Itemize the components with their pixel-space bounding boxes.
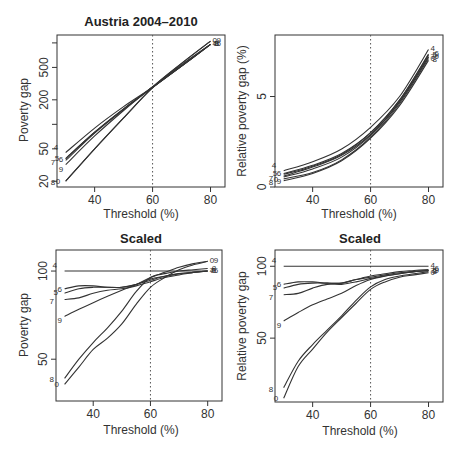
series-end-label: 0 (210, 256, 215, 265)
x-tick-label: 40 (88, 193, 102, 207)
series-line-4 (284, 49, 429, 170)
series-start-label: 4 (54, 143, 59, 152)
y-tick-label: 50 (36, 352, 50, 366)
chart-canvas: Austria 2004–2010 Threshold (%) Poverty … (0, 0, 464, 456)
panel-title: Austria 2004–2010 (84, 14, 197, 29)
x-tick-label: 60 (364, 193, 378, 207)
y-tick-label: 5 (255, 93, 269, 100)
y-tick-label: 500 (37, 57, 51, 77)
y-tick-label: 100 (36, 261, 50, 281)
series-start-label: 6 (277, 280, 282, 289)
series-start-label: 7 (50, 297, 55, 306)
series-line-0 (65, 261, 208, 384)
x-tick-label: 80 (201, 407, 215, 421)
y-tick-label: 100 (255, 256, 269, 276)
series-start-label: 9 (58, 316, 63, 325)
series-end-label: 0 (431, 268, 436, 277)
x-tick-label: 60 (146, 193, 160, 207)
series-line-5 (65, 271, 208, 293)
series-start-label: 9 (59, 165, 64, 174)
series-end-label: 9 (435, 52, 440, 61)
series-line-0 (66, 41, 211, 181)
series-start-label: 4 (53, 261, 58, 270)
panel-relative-poverty-gap: Threshold (%) Relative poverty gap (%) 4… (235, 35, 443, 221)
y-tick-label: 20 (37, 174, 51, 188)
y-axis-label: Relative poverty gap (%) (235, 45, 249, 176)
series-line-9 (284, 271, 429, 321)
series-line-8 (66, 44, 211, 181)
series-start-label: 4 (272, 256, 277, 265)
series-line-8 (284, 272, 429, 388)
series-line-0 (284, 273, 429, 399)
series-start-label: 6 (59, 155, 64, 164)
series-start-label: 7 (51, 158, 56, 167)
y-tick-label: 50 (255, 331, 269, 345)
series-start-label: 9 (277, 321, 282, 330)
series-start-label: 0 (56, 177, 61, 186)
panel-scaled-poverty-gap: Scaled Threshold (%) Poverty gap 4060805… (17, 231, 222, 437)
series-line-7 (284, 57, 429, 176)
series-line-0 (284, 59, 429, 179)
x-axis-label: Threshold (%) (321, 207, 396, 221)
x-axis-label: Threshold (%) (103, 423, 178, 437)
series-start-label: 0 (55, 380, 60, 389)
figure: Austria 2004–2010 Threshold (%) Poverty … (0, 0, 464, 456)
plot-area: 4060805010044556677889900 (36, 250, 222, 421)
x-tick-label: 40 (306, 408, 320, 422)
series-end-label: 0 (213, 36, 218, 45)
plot-frame (57, 35, 225, 187)
series-start-label: 0 (274, 394, 279, 403)
x-tick-label: 60 (144, 407, 158, 421)
series-start-label: 6 (58, 285, 63, 294)
y-tick-label: 50 (37, 142, 51, 156)
x-tick-label: 40 (306, 193, 320, 207)
series-line-5 (284, 55, 429, 174)
x-tick-label: 80 (422, 408, 436, 422)
x-tick-label: 40 (87, 407, 101, 421)
x-axis-label: Threshold (%) (322, 424, 397, 438)
series-line-6 (284, 54, 429, 173)
series-end-label: 9 (217, 36, 222, 45)
x-tick-label: 80 (204, 193, 218, 207)
x-axis-label: Threshold (%) (103, 207, 178, 221)
y-axis-label: Poverty gap (17, 78, 31, 142)
x-tick-label: 80 (422, 193, 436, 207)
plot-area: 4060800544556677889900 (255, 35, 443, 207)
series-end-label: 9 (214, 256, 219, 265)
y-tick-label: 0 (255, 183, 269, 190)
panel-poverty-gap: Austria 2004–2010 Threshold (%) Poverty … (17, 14, 225, 221)
plot-frame (275, 35, 443, 187)
series-line-8 (284, 60, 429, 180)
panel-title: Scaled (339, 231, 381, 246)
series-line-7 (284, 271, 429, 295)
panel-scaled-relative-poverty-gap: Scaled Threshold (%) Relative poverty ga… (235, 231, 443, 438)
y-tick-label: 200 (37, 89, 51, 109)
series-end-label: 0 (431, 54, 436, 63)
series-start-label: 0 (274, 175, 279, 184)
series-line-9 (65, 261, 208, 316)
plot-frame (56, 250, 222, 401)
y-axis-label: Relative poverty gap (235, 271, 249, 381)
series-line-9 (284, 57, 429, 177)
plot-area: 406080205020050044556677889900 (37, 35, 225, 207)
panel-title: Scaled (120, 231, 162, 246)
series-start-label: 8 (269, 385, 274, 394)
x-tick-label: 60 (364, 408, 378, 422)
series-end-label: 9 (435, 266, 440, 275)
series-start-label: 7 (269, 293, 274, 302)
plot-area: 4060805010044556677889900 (255, 250, 443, 422)
y-axis-label: Poverty gap (17, 293, 31, 357)
